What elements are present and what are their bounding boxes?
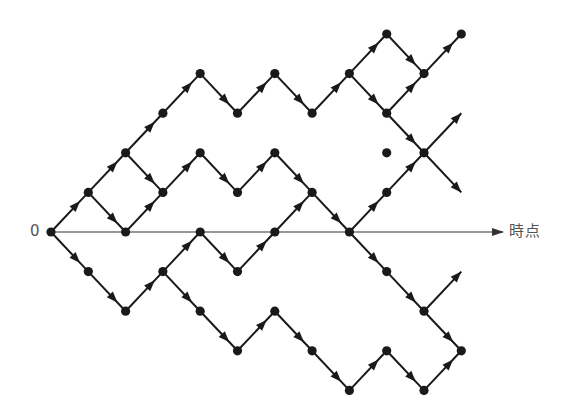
edge (126, 272, 163, 312)
lattice-node (382, 188, 391, 197)
lattice-node (233, 109, 242, 118)
lattice-node (158, 109, 167, 118)
edge (387, 272, 424, 312)
lattice-node (84, 188, 93, 197)
lattice-node (270, 148, 279, 157)
lattice-node (196, 307, 205, 316)
lattice-node (158, 267, 167, 276)
lattice-node (419, 386, 428, 395)
edge (349, 351, 386, 391)
lattice-node (457, 29, 466, 38)
edge (200, 232, 237, 272)
edge (238, 74, 275, 114)
lattice-node (233, 346, 242, 355)
edge (424, 351, 461, 391)
edge (424, 311, 461, 351)
edge (312, 74, 349, 114)
lattice-node (121, 148, 130, 157)
lattice-node (308, 188, 317, 197)
edge (424, 34, 461, 74)
edge (126, 192, 163, 232)
lattice-node (84, 267, 93, 276)
origin-label: 0 (30, 224, 40, 239)
edge (238, 232, 275, 272)
edge (275, 153, 312, 193)
edge (200, 153, 237, 193)
lattice-node (345, 227, 354, 236)
lattice-node (457, 346, 466, 355)
lattice-node (382, 346, 391, 355)
edge (387, 113, 424, 153)
lattice-node (308, 346, 317, 355)
edge (387, 74, 424, 114)
edge (275, 74, 312, 114)
edge (275, 311, 312, 351)
lattice-node (158, 188, 167, 197)
lattice-node (308, 109, 317, 118)
edge (312, 192, 349, 232)
edge (88, 192, 125, 232)
lattice-node (419, 69, 428, 78)
lattice-node (345, 69, 354, 78)
edge (200, 311, 237, 351)
edge (349, 192, 386, 232)
lattice-node (270, 69, 279, 78)
lattice-node (121, 227, 130, 236)
lattice-node (382, 109, 391, 118)
lattice-node (46, 227, 55, 236)
edge (238, 311, 275, 351)
lattice-node (382, 29, 391, 38)
lattice-node (419, 148, 428, 157)
lattice-node (121, 307, 130, 316)
edge (349, 74, 386, 114)
lattice-node (345, 386, 354, 395)
edge (387, 351, 424, 391)
edge (312, 351, 349, 391)
edge (163, 272, 200, 312)
edge (349, 34, 386, 74)
lattice-node (270, 227, 279, 236)
lattice-node (233, 188, 242, 197)
lattice-node (382, 148, 391, 157)
lattice-node (233, 267, 242, 276)
edge (387, 34, 424, 74)
edge (275, 192, 312, 232)
edge (163, 74, 200, 114)
lattice-node (270, 307, 279, 316)
lattice-node (382, 267, 391, 276)
edge (387, 153, 424, 193)
edge (126, 113, 163, 153)
edge (88, 153, 125, 193)
edge (238, 153, 275, 193)
edge (349, 232, 386, 272)
edge (200, 74, 237, 114)
lattice-node (419, 307, 428, 316)
lattice-node (196, 69, 205, 78)
time-axis-label: 時点 (509, 224, 541, 239)
edge (51, 232, 88, 272)
edge (126, 153, 163, 193)
edge (163, 153, 200, 193)
lattice-node (196, 227, 205, 236)
nodes (46, 29, 466, 395)
lattice-diagram (0, 0, 573, 417)
lattice-node (196, 148, 205, 157)
edge (51, 192, 88, 232)
edges (51, 34, 461, 390)
edge (88, 272, 125, 312)
edge (163, 232, 200, 272)
